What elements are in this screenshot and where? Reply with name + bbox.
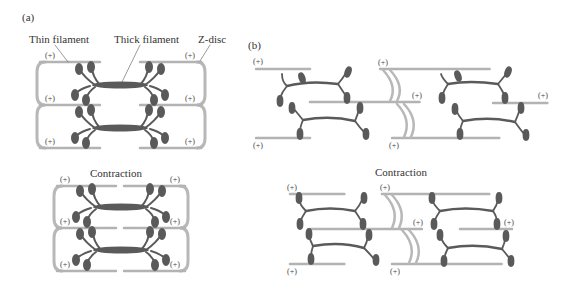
plus-end-mark: (+) — [45, 137, 55, 146]
plus-end-mark: (+) — [538, 91, 548, 100]
plus-end-mark: (+) — [253, 57, 263, 66]
panel-a-contraction-label: Contraction — [90, 167, 142, 179]
plus-end-mark: (+) — [413, 218, 423, 227]
thick-filament-label: Thick filament — [114, 33, 179, 45]
plus-end-mark: (+) — [504, 218, 514, 227]
plus-end-mark: (+) — [185, 51, 195, 60]
panel-b-label: (b) — [248, 39, 261, 51]
plus-end-mark: (+) — [60, 175, 70, 184]
plus-end-mark: (+) — [185, 94, 195, 103]
thin-filament-label: Thin filament — [29, 33, 89, 45]
plus-end-mark: (+) — [185, 137, 195, 146]
plus-end-mark: (+) — [60, 217, 70, 226]
plus-end-mark: (+) — [170, 175, 180, 184]
panel-b-contraction-label: Contraction — [375, 166, 427, 178]
plus-end-mark: (+) — [253, 141, 263, 150]
plus-end-mark: (+) — [389, 141, 399, 150]
panel-b-contracted — [290, 193, 514, 266]
plus-end-mark: (+) — [380, 183, 390, 192]
panel-a-contracted — [54, 184, 188, 271]
plus-end-mark: (+) — [45, 94, 55, 103]
plus-end-mark: (+) — [60, 260, 70, 269]
plus-end-mark: (+) — [287, 183, 297, 192]
plus-end-mark: (+) — [170, 217, 180, 226]
plus-end-mark: (+) — [45, 51, 55, 60]
myosin-heads — [73, 184, 169, 270]
thin-filaments — [290, 194, 512, 264]
myosin-heads — [72, 62, 168, 148]
thin-filaments — [40, 62, 202, 148]
plus-end-mark: (+) — [378, 58, 388, 67]
thick-filaments — [92, 82, 148, 132]
panel-b-relaxed — [256, 66, 548, 140]
plus-end-mark: (+) — [170, 260, 180, 269]
plus-end-mark: (+) — [390, 267, 400, 276]
z-disc-label: Z-disc — [198, 33, 226, 45]
plus-end-mark: (+) — [412, 91, 422, 100]
z-disc-arcs — [383, 70, 414, 137]
plus-end-mark: (+) — [287, 267, 297, 276]
panel-a-label: (a) — [22, 11, 34, 23]
